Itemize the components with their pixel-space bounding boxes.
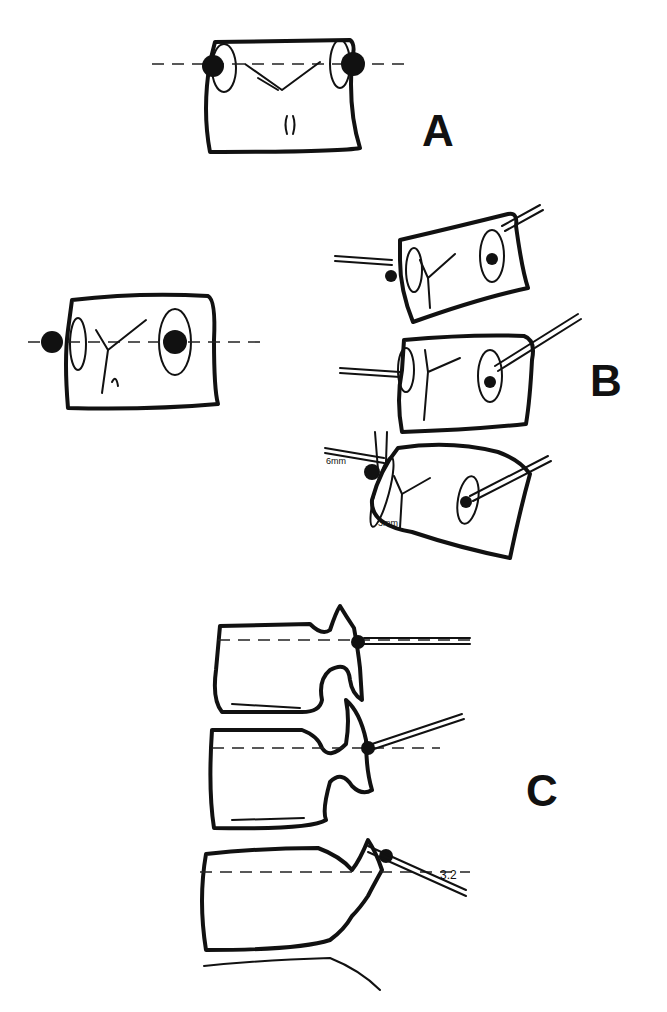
annotation-offset-bottom: 3mm xyxy=(378,518,398,528)
panel-label-c: C xyxy=(526,766,558,816)
panel-b-stack-top xyxy=(335,205,543,322)
screw-icon xyxy=(41,331,63,353)
screw-icon xyxy=(163,330,187,354)
panel-c-vertebra-1 xyxy=(215,606,470,712)
panel-label-b: B xyxy=(590,356,622,406)
panel-b-stack-middle xyxy=(340,314,581,432)
figure-canvas xyxy=(0,0,667,1012)
panel-c-vertebra-2 xyxy=(210,700,464,828)
screw-icon xyxy=(202,55,224,77)
screw-icon xyxy=(341,52,365,76)
panel-b-stack-bottom xyxy=(325,432,551,558)
screw-icon xyxy=(351,635,365,649)
panel-a-vertebra xyxy=(152,40,412,152)
annotation-angle: 3.2 xyxy=(440,868,457,882)
panel-b-main-vertebra xyxy=(28,295,262,409)
panel-c-vertebra-3 xyxy=(200,840,470,990)
annotation-offset-top: 6mm xyxy=(326,456,346,466)
panel-label-a: A xyxy=(422,106,454,156)
